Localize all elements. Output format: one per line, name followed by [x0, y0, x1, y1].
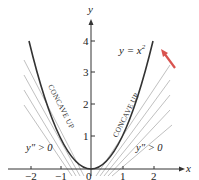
x-tick-label: 2 — [151, 170, 157, 180]
tangent-lines — [24, 60, 172, 176]
y-tick-label: 3 — [83, 66, 89, 78]
left-second-derivative-label: y″ > 0 — [25, 142, 53, 153]
concavity-diagram: −2 −1 0 1 2 1 2 3 4 x y y = x2 y″ > 0 y″… — [0, 0, 199, 180]
x-tick-label: −1 — [55, 170, 67, 180]
y-axis-label: y — [87, 3, 93, 15]
x-axis-arrow-icon — [179, 167, 185, 172]
x-tick-label: 0 — [86, 170, 92, 180]
y-axis-arrow-icon — [89, 19, 94, 25]
curve-label: y = x2 — [118, 43, 146, 56]
x-axis-label: x — [185, 162, 191, 174]
x-tick-label: −2 — [25, 170, 37, 180]
right-second-derivative-label: y″ > 0 — [135, 142, 163, 153]
direction-arrow-icon — [161, 49, 175, 68]
y-tick-label: 4 — [83, 35, 89, 47]
x-tick-label: 1 — [120, 170, 126, 180]
y-tick-label: 1 — [83, 130, 89, 142]
y-tick-label: 2 — [83, 98, 89, 110]
